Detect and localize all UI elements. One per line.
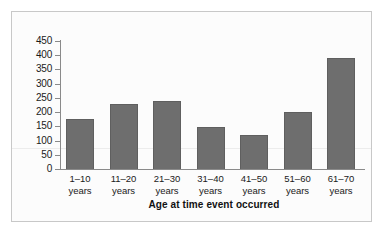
y-axis-tick-label: 450 (12, 36, 52, 46)
bar (284, 112, 312, 169)
bar (327, 58, 355, 169)
y-axis-tick (55, 169, 60, 170)
x-axis-title: Age at time event occurred (60, 199, 368, 210)
bar (66, 119, 94, 169)
x-axis-tick-label-line: years (313, 185, 369, 197)
bar (110, 104, 138, 169)
x-axis-tick-label: 61–70years (313, 173, 369, 197)
y-axis-tick-label: 150 (12, 121, 52, 131)
bar-chart-figure: 450400350300250200150100500 1–10years11–… (0, 0, 385, 233)
y-axis-tick-label: 400 (12, 50, 52, 60)
plot-area (60, 41, 368, 169)
y-axis-tick-label: 250 (12, 93, 52, 103)
y-axis-tick-label: 200 (12, 107, 52, 117)
bar (240, 135, 268, 169)
y-axis-tick-label: 50 (12, 150, 52, 160)
y-axis-tick-label: 0 (12, 164, 52, 174)
bar (153, 101, 181, 169)
y-axis-tick-label: 300 (12, 79, 52, 89)
bar (197, 127, 225, 169)
y-axis-tick-label: 350 (12, 64, 52, 74)
y-axis-tick-label: 100 (12, 136, 52, 146)
x-axis-line (60, 169, 365, 170)
x-axis-tick-label-line: 61–70 (313, 173, 369, 185)
